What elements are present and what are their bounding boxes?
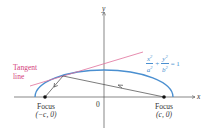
equation-x-term: x2 a2 xyxy=(146,53,153,74)
left-focus-coords: (−c, 0) xyxy=(32,111,60,119)
right-focus-coords: (c, 0) xyxy=(150,111,178,119)
right-focus-point xyxy=(162,95,166,99)
origin-label: 0 xyxy=(96,101,100,109)
ellipse-equation: x2 a2 + y2 b2 = 1 xyxy=(146,53,180,74)
left-focus-point xyxy=(43,95,47,99)
x-exponent: 2 xyxy=(150,54,152,59)
left-focus-label: Focus (−c, 0) xyxy=(32,103,60,119)
b-exponent: 2 xyxy=(166,65,168,70)
ellipse-reflection-diagram: y x 0 Tangent line Focus (−c, 0) Focus (… xyxy=(0,0,209,133)
right-focus-label: Focus (c, 0) xyxy=(150,103,178,119)
reflected-ray-arrow-icon xyxy=(54,83,58,87)
x-axis-label: x xyxy=(197,93,200,101)
equation-plus: + xyxy=(155,60,159,68)
a-exponent: 2 xyxy=(150,65,152,70)
tangent-label-line2: line xyxy=(13,73,24,81)
y-exponent: 2 xyxy=(165,54,167,59)
equation-y-term: y2 b2 xyxy=(161,53,168,74)
y-axis-label: y xyxy=(102,5,105,13)
incident-ray xyxy=(63,76,164,97)
tangent-label-line1: Tangent xyxy=(13,64,37,72)
equation-equals: = 1 xyxy=(171,60,180,68)
